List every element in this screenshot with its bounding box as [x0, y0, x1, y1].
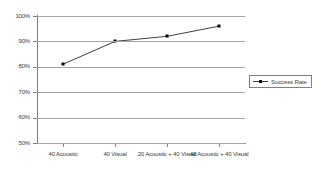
- x-tick-label: 40 Acoustic: [33, 150, 93, 158]
- y-tick-label: 60%: [4, 114, 30, 121]
- x-tick-mark: [63, 144, 64, 147]
- gridline: [37, 143, 245, 144]
- y-tick-label: 90%: [4, 38, 30, 45]
- x-tick-mark: [219, 144, 220, 147]
- gridline: [37, 41, 245, 42]
- x-tick-mark: [167, 144, 168, 147]
- y-tick-label: 70%: [4, 89, 30, 96]
- y-tick-label: 100%: [4, 13, 30, 20]
- gridline: [37, 118, 245, 119]
- data-point[interactable]: [166, 35, 169, 38]
- plot-area: [37, 16, 245, 143]
- gridline: [37, 16, 245, 17]
- x-tick-label: 40 Acoustic + 40 Visual: [189, 150, 249, 158]
- legend-item-label: Success Rate: [271, 79, 307, 85]
- y-tick-label: 50%: [4, 140, 30, 147]
- chart-container: 100%90%80%70%60%50% 40 Acoustic40 Visual…: [0, 0, 326, 181]
- x-tick-label: 40 Visual: [85, 150, 145, 158]
- series-success-rate: [37, 16, 245, 143]
- legend[interactable]: Success Rate: [249, 75, 312, 88]
- data-point[interactable]: [62, 63, 65, 66]
- gridline: [37, 67, 245, 68]
- legend-line-marker-icon: [253, 78, 268, 85]
- gridline: [37, 92, 245, 93]
- series-line: [63, 26, 219, 64]
- x-tick-mark: [115, 144, 116, 147]
- data-point[interactable]: [218, 25, 221, 28]
- x-tick-label: 20 Acoustic + 40 Visual: [137, 150, 197, 158]
- y-tick-label: 80%: [4, 63, 30, 70]
